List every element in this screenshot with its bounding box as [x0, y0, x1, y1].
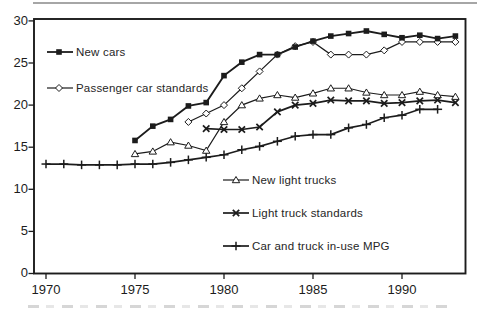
x-tick-label: 1975	[113, 283, 157, 297]
series-line-car_and_truck_in_use	[46, 109, 438, 165]
marker-passenger_car_standards	[416, 38, 423, 45]
marker-new_cars	[239, 59, 245, 65]
x-tick-label: 1980	[202, 283, 246, 297]
marker-new_cars	[221, 73, 227, 79]
marker-new_cars	[417, 32, 423, 38]
marker-new_cars	[203, 100, 209, 106]
legend-label-new-cars: New cars	[76, 46, 126, 59]
marker-new_cars	[275, 52, 281, 58]
y-tick-label: 0	[0, 266, 28, 280]
legend-label-car-truck-in-use-mpg: Car and truck in-use MPG	[252, 240, 390, 253]
marker-new_cars	[435, 36, 441, 42]
marker-new_light_trucks	[416, 88, 423, 94]
x-tick-label: 1990	[380, 283, 424, 297]
y-tick-label: 30	[0, 14, 28, 28]
legend-label-new-light-trucks: New light trucks	[252, 174, 336, 187]
marker-passenger_car_standards	[345, 51, 352, 58]
marker-new_cars	[453, 33, 459, 39]
marker-new_cars	[346, 31, 352, 37]
marker-new_cars	[257, 52, 263, 58]
x-tick-label: 1985	[291, 283, 335, 297]
marker-new_light_trucks	[274, 91, 281, 97]
marker-new_cars	[328, 33, 334, 39]
y-tick-label: 5	[0, 224, 28, 238]
marker-new_light_trucks	[149, 148, 156, 154]
y-tick-label: 25	[0, 56, 28, 70]
y-tick-label: 15	[0, 140, 28, 154]
legend-sample-filled-square-icon	[56, 49, 62, 55]
marker-new_cars	[168, 117, 174, 123]
marker-passenger_car_standards	[185, 118, 192, 125]
marker-passenger_car_standards	[363, 51, 370, 58]
marker-new_cars	[292, 44, 298, 50]
marker-new_cars	[186, 103, 192, 109]
marker-new_cars	[399, 35, 405, 41]
legend-label-light-truck-standards: Light truck standards	[252, 207, 363, 220]
legend-label-passenger-car-standards: Passenger car standards	[76, 82, 208, 95]
legend-sample-open-diamond-icon	[56, 85, 63, 92]
marker-new_cars	[310, 38, 316, 44]
y-tick-label: 20	[0, 98, 28, 112]
marker-passenger_car_standards	[452, 38, 459, 45]
marker-new_light_trucks	[167, 139, 174, 145]
marker-new_cars	[132, 138, 138, 144]
marker-new_cars	[381, 32, 387, 38]
marker-passenger_car_standards	[381, 47, 388, 54]
marker-new_cars	[364, 28, 370, 34]
x-tick-label: 1970	[24, 283, 68, 297]
cropped-caption-band	[28, 305, 448, 308]
y-tick-label: 10	[0, 182, 28, 196]
fuel-economy-figure: 30 25 20 15 10 5 0 1970 1975 1980 1985 1…	[0, 0, 477, 311]
marker-new_cars	[150, 123, 156, 129]
marker-passenger_car_standards	[203, 110, 210, 117]
fuel-economy-line-chart	[0, 0, 477, 311]
